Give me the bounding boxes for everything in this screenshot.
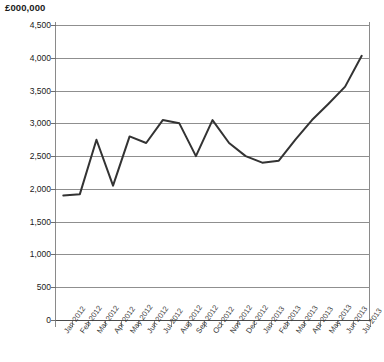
- y-axis-tick-mark: [51, 123, 56, 124]
- y-axis-tick-mark: [51, 254, 56, 255]
- y-axis-tick-mark: [51, 58, 56, 59]
- y-axis-tick-mark: [51, 287, 56, 288]
- y-axis-tick-mark: [51, 156, 56, 157]
- y-axis-tick-mark: [51, 222, 56, 223]
- y-axis-tick-mark: [51, 25, 56, 26]
- y-axis-tick-mark: [51, 189, 56, 190]
- y-axis-tick-mark: [51, 320, 56, 321]
- y-axis-tick-mark: [51, 91, 56, 92]
